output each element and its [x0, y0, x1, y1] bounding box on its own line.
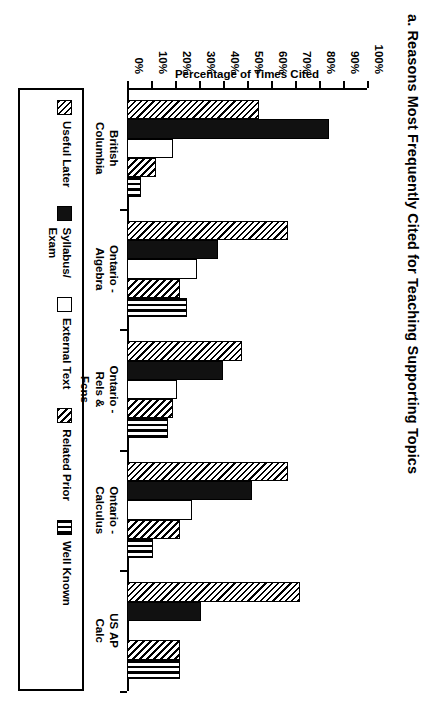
- category-tick: [120, 570, 127, 572]
- bar: [127, 660, 180, 679]
- legend-swatch-icon: [57, 408, 72, 423]
- legend-item: Related Prior: [57, 408, 73, 501]
- value-tick: [151, 81, 153, 88]
- category-tick: [120, 691, 127, 693]
- bar: [127, 520, 180, 539]
- bar: [127, 399, 173, 418]
- value-tick-label: 40%: [229, 28, 241, 74]
- bar: [127, 582, 300, 601]
- value-tick-label: 70%: [301, 28, 313, 74]
- category-label: British Columbia: [92, 88, 121, 209]
- category-axis-line: [127, 88, 367, 90]
- bar: [127, 221, 288, 240]
- value-tick-label: 0%: [133, 28, 145, 74]
- legend-label: Useful Later: [59, 121, 73, 187]
- value-tick-label: 100%: [373, 28, 385, 74]
- legend-swatch-icon: [57, 520, 72, 535]
- legend-swatch-icon: [57, 100, 72, 115]
- bar: [127, 500, 192, 519]
- bar: [127, 640, 180, 659]
- category-tick: [120, 209, 127, 211]
- legend-item: External Text: [57, 297, 73, 389]
- category-label: US AP Calc: [92, 570, 121, 691]
- category-tick: [120, 450, 127, 452]
- value-tick: [247, 81, 249, 88]
- value-tick-label: 50%: [253, 28, 265, 74]
- bar: [127, 380, 177, 399]
- legend-swatch-icon: [57, 206, 72, 221]
- category-tick: [120, 329, 127, 331]
- chart-title: a. Reasons Most Frequently Cited for Tea…: [405, 14, 421, 474]
- value-tick: [295, 81, 297, 88]
- value-tick: [199, 81, 201, 88]
- legend-swatch-icon: [57, 297, 72, 312]
- bar: [127, 539, 153, 558]
- bar: [127, 462, 288, 481]
- value-tick-label: 20%: [181, 28, 193, 74]
- chart-legend: Useful LaterSyllabus/ ExamExternal TextR…: [18, 88, 84, 691]
- legend-label: Well Known: [59, 541, 73, 606]
- value-tick: [175, 81, 177, 88]
- bar: [127, 361, 223, 380]
- category-label: Ontario - Rels & Fcns: [78, 329, 121, 450]
- legend-label: Syllabus/ Exam: [45, 227, 73, 278]
- bar: [127, 139, 173, 158]
- legend-item: Syllabus/ Exam: [45, 206, 73, 278]
- value-tick-label: 90%: [349, 28, 361, 74]
- legend-label: External Text: [59, 318, 73, 389]
- bar: [127, 240, 218, 259]
- value-tick: [319, 81, 321, 88]
- bar: [127, 481, 252, 500]
- value-tick: [271, 81, 273, 88]
- bar: [127, 418, 168, 437]
- bar: [127, 158, 156, 177]
- bar: [127, 177, 141, 196]
- legend-items: Useful LaterSyllabus/ ExamExternal TextR…: [45, 100, 73, 606]
- bar: [127, 100, 259, 119]
- value-tick: [223, 81, 225, 88]
- chart-canvas: a. Reasons Most Frequently Cited for Tea…: [0, 0, 429, 713]
- bar: [127, 341, 242, 360]
- legend-item: Well Known: [57, 520, 73, 606]
- bar: [127, 279, 180, 298]
- legend-label: Related Prior: [59, 429, 73, 501]
- value-tick-label: 10%: [157, 28, 169, 74]
- value-tick-label: 30%: [205, 28, 217, 74]
- category-label: Ontario - Calculus: [92, 450, 121, 571]
- value-tick: [343, 81, 345, 88]
- legend-item: Useful Later: [57, 100, 73, 187]
- bar: [127, 119, 329, 138]
- value-tick: [367, 81, 369, 88]
- bar: [127, 602, 201, 621]
- value-tick-label: 60%: [277, 28, 289, 74]
- plot-area: Percentage of Times Cited 0%10%20%30%40%…: [127, 88, 367, 691]
- value-axis-title: Percentage of Times Cited: [175, 68, 319, 80]
- value-tick-label: 80%: [325, 28, 337, 74]
- bar: [127, 298, 187, 317]
- bar: [127, 259, 197, 278]
- category-label: Ontario - Algebra: [92, 209, 121, 330]
- value-tick: [127, 81, 129, 88]
